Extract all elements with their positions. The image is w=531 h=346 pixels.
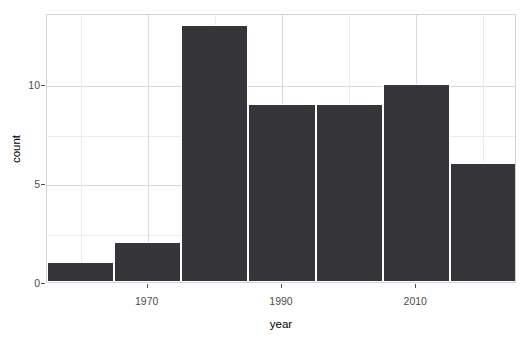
histogram-bar [114, 242, 181, 282]
histogram-bar [383, 84, 450, 282]
histogram-bar [181, 25, 248, 282]
x-axis-tick-mark [147, 284, 148, 288]
x-axis-tick-mark [281, 284, 282, 288]
x-axis-tick-label: 1970 [135, 296, 158, 307]
x-axis-title: year [46, 318, 516, 330]
y-axis-tick-mark [41, 283, 45, 284]
y-axis-tick-labels: 0510 [0, 0, 40, 346]
histogram-bar [450, 163, 516, 282]
y-axis-tick-label: 10 [2, 80, 40, 91]
y-axis-tick-label: 0 [2, 278, 40, 289]
plot-panel [46, 14, 516, 283]
histogram-bar [47, 262, 114, 282]
gridline-minor-vertical [81, 15, 82, 282]
y-axis-tick-mark [41, 85, 45, 86]
histogram-bar [248, 104, 315, 282]
x-axis-tick-label: 1990 [269, 296, 292, 307]
y-axis-tick-label: 5 [2, 179, 40, 190]
y-axis-tick-mark [41, 184, 45, 185]
x-axis-tick-mark [415, 284, 416, 288]
histogram-bar [316, 104, 383, 282]
x-axis-tick-label: 2010 [404, 296, 427, 307]
histogram-chart: count 0510 197019902010 year [0, 0, 531, 346]
